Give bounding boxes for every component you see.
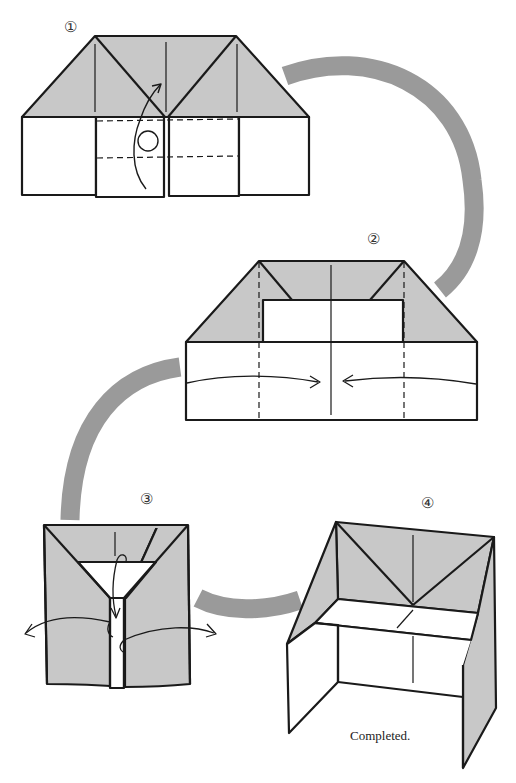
right-panel <box>239 117 309 195</box>
step-2-number: ② <box>367 230 380 248</box>
arc-step3-to-step4 <box>198 598 300 609</box>
left-lower-panel <box>287 623 338 733</box>
completed-caption: Completed. <box>350 728 410 744</box>
step-3-number: ③ <box>140 490 153 508</box>
arc-step2-to-step3 <box>70 367 180 520</box>
step-3-figure <box>25 525 216 688</box>
back-wall <box>336 522 494 613</box>
step-1-number: ① <box>64 18 77 36</box>
origami-diagram <box>0 0 516 783</box>
step-2-figure <box>186 261 477 420</box>
step-1-figure <box>22 36 309 197</box>
inner-white-flap <box>263 300 403 342</box>
step-4-number: ④ <box>421 494 434 512</box>
arc-step1-to-step2 <box>285 66 474 290</box>
left-panel <box>22 117 96 195</box>
